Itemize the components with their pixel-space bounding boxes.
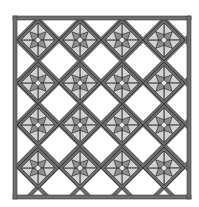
frame-right bbox=[187, 16, 191, 199]
frame-left bbox=[13, 16, 17, 199]
frame-top bbox=[13, 16, 191, 20]
frame-bottom bbox=[13, 195, 191, 199]
quilt-illustration bbox=[0, 0, 199, 207]
